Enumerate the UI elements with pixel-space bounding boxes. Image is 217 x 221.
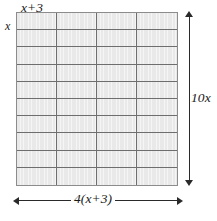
grid-cell [137, 168, 177, 185]
grid-cell [97, 133, 137, 150]
bottom-dimension-label: 4(x+3) [71, 192, 115, 206]
arrow-down-icon [185, 180, 193, 186]
grid-cell [17, 133, 57, 150]
grid-cell [97, 99, 137, 116]
grid-cell [97, 65, 137, 82]
arrow-left-icon [13, 197, 19, 205]
grid-cell [137, 82, 177, 99]
grid-cell [57, 30, 97, 47]
grid-cell [17, 116, 57, 133]
grid-cell [97, 47, 137, 64]
grid-cell [17, 30, 57, 47]
grid-cell [57, 133, 97, 150]
area-model-figure: x+3 x 10x 4(x+3) [0, 0, 217, 221]
grid-cell [17, 13, 57, 30]
grid-cell [17, 99, 57, 116]
grid-cell [57, 82, 97, 99]
grid-cell [17, 47, 57, 64]
grid-cell [137, 30, 177, 47]
grid-cell [57, 151, 97, 168]
grid-cell [97, 82, 137, 99]
grid-cell [137, 133, 177, 150]
grid-cell [57, 99, 97, 116]
area-grid-cells [17, 13, 177, 185]
grid-cell [137, 116, 177, 133]
arrow-right-icon [177, 197, 183, 205]
grid-cell [137, 13, 177, 30]
grid-cell [97, 13, 137, 30]
grid-cell [137, 151, 177, 168]
grid-cell [57, 116, 97, 133]
area-grid [16, 12, 178, 186]
grid-cell [17, 151, 57, 168]
grid-cell [137, 65, 177, 82]
arrow-up-icon [185, 11, 193, 17]
vertical-dimension-line [189, 15, 190, 183]
left-dimension-label: x [5, 20, 10, 32]
grid-cell [17, 82, 57, 99]
grid-cell [97, 168, 137, 185]
grid-cell [97, 151, 137, 168]
grid-cell [57, 168, 97, 185]
grid-cell [17, 168, 57, 185]
grid-cell [97, 30, 137, 47]
grid-cell [97, 116, 137, 133]
right-dimension-label: 10x [191, 91, 211, 105]
grid-cell [57, 65, 97, 82]
grid-cell [57, 13, 97, 30]
grid-cell [137, 47, 177, 64]
grid-cell [137, 99, 177, 116]
grid-cell [57, 47, 97, 64]
grid-cell [17, 65, 57, 82]
